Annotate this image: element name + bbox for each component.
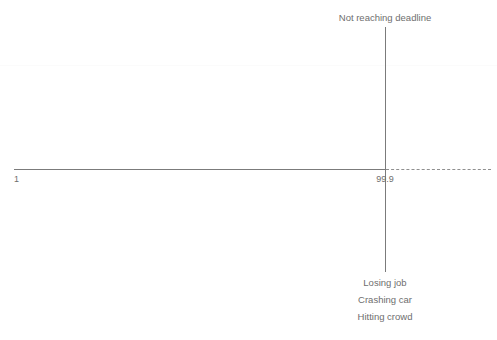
consequence-label-3: Hitting crowd bbox=[358, 310, 413, 323]
concept-axis-diagram: Not reaching deadline 1 99.9 Losing job … bbox=[0, 0, 497, 340]
axis-tick-label-max: 99.9 bbox=[376, 173, 394, 186]
threshold-consequences-list: Losing job Crashing car Hitting crowd bbox=[358, 276, 413, 323]
axis-solid-segment bbox=[14, 169, 385, 170]
threshold-divider-line bbox=[385, 27, 386, 272]
threshold-above-label: Not reaching deadline bbox=[339, 11, 431, 24]
consequence-label-2: Crashing car bbox=[358, 293, 412, 306]
axis-tick-label-min: 1 bbox=[14, 173, 19, 186]
axis-dashed-continuation bbox=[386, 169, 491, 170]
background-band bbox=[0, 65, 497, 66]
consequence-label-1: Losing job bbox=[363, 276, 406, 289]
